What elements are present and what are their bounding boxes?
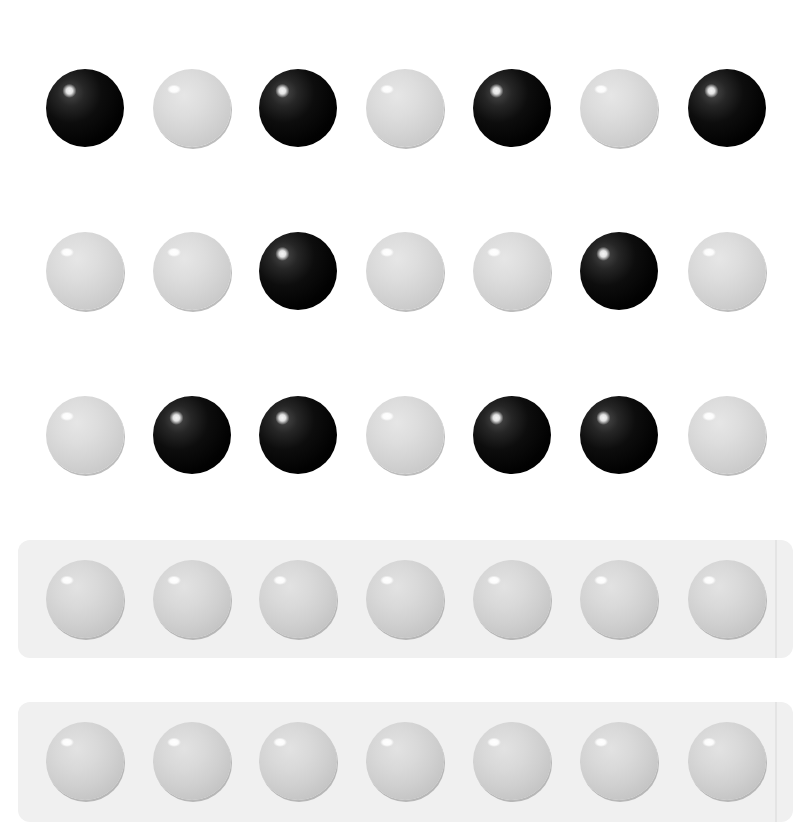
empty-ball-slot[interactable] — [688, 722, 766, 800]
empty-ball-slot[interactable] — [688, 560, 766, 638]
empty-ball-slot[interactable] — [153, 722, 231, 800]
black-ball — [580, 232, 658, 310]
white-ball — [46, 396, 124, 474]
empty-ball-slot[interactable] — [580, 722, 658, 800]
black-ball — [688, 69, 766, 147]
empty-ball-slot[interactable] — [580, 560, 658, 638]
empty-ball-slot[interactable] — [473, 560, 551, 638]
sequence-row-2 — [0, 232, 779, 310]
white-ball — [688, 232, 766, 310]
empty-ball-slot[interactable] — [259, 560, 337, 638]
empty-ball-slot[interactable] — [46, 722, 124, 800]
white-ball — [473, 232, 551, 310]
black-ball — [580, 396, 658, 474]
white-ball — [153, 232, 231, 310]
black-ball — [46, 69, 124, 147]
white-ball — [46, 232, 124, 310]
white-ball — [580, 69, 658, 147]
black-ball — [259, 232, 337, 310]
white-ball — [153, 69, 231, 147]
sequence-row-3 — [0, 396, 779, 474]
empty-ball-slot[interactable] — [366, 560, 444, 638]
answer-row-4 — [0, 560, 779, 638]
white-ball — [366, 232, 444, 310]
empty-ball-slot[interactable] — [473, 722, 551, 800]
white-ball — [688, 396, 766, 474]
white-ball — [366, 69, 444, 147]
sequence-row-1 — [0, 69, 779, 147]
black-ball — [473, 396, 551, 474]
black-ball — [473, 69, 551, 147]
black-ball — [259, 69, 337, 147]
empty-ball-slot[interactable] — [259, 722, 337, 800]
black-ball — [153, 396, 231, 474]
empty-ball-slot[interactable] — [46, 560, 124, 638]
answer-row-5 — [0, 722, 779, 800]
black-ball — [259, 396, 337, 474]
empty-ball-slot[interactable] — [366, 722, 444, 800]
white-ball — [366, 396, 444, 474]
empty-ball-slot[interactable] — [153, 560, 231, 638]
